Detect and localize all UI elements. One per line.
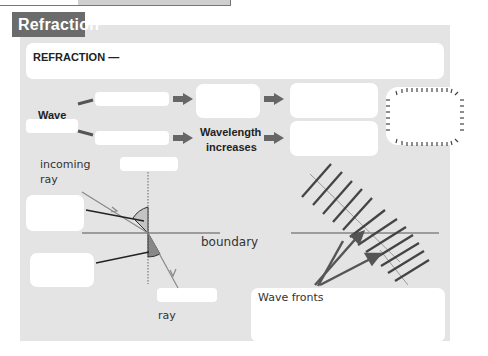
ray-diagram xyxy=(82,172,220,288)
wavefront-diagram xyxy=(291,164,439,286)
diagram-graphics xyxy=(0,0,488,356)
arrow-icon xyxy=(173,93,284,144)
starburst-icon xyxy=(386,88,464,146)
section-tag: Refraction xyxy=(12,12,85,37)
connector-lines xyxy=(78,100,93,135)
